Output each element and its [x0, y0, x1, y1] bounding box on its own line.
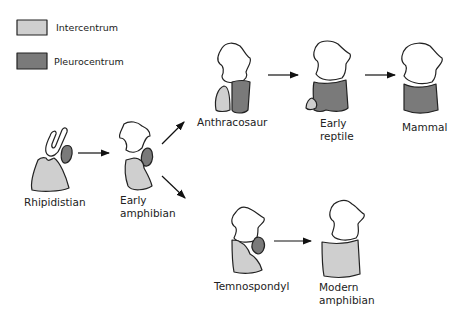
arrow-early-amphibian-to-anthracosaur	[162, 122, 184, 144]
early-reptile-label-line2: reptile	[320, 130, 354, 143]
rhipidistian-label: Rhipidistian	[24, 196, 86, 209]
legend-intercentrum-label: Intercentrum	[56, 21, 118, 34]
anthracosaur-vertebra	[215, 43, 250, 113]
modern-amphibian-vertebra	[322, 200, 364, 277]
anthracosaur-label: Anthracosaur	[197, 116, 267, 129]
rhipidistian-vertebra	[31, 128, 72, 191]
temnospondyl-label: Temnospondyl	[214, 280, 289, 293]
modern-amphibian-label-line1: Modern	[319, 281, 358, 294]
intercentrum-swatch	[17, 20, 47, 35]
temnospondyl-vertebra	[232, 207, 265, 273]
mammal-vertebra	[402, 43, 443, 113]
early-amphibian-label-line1: Early	[120, 194, 147, 207]
mammal-label: Mammal	[402, 121, 447, 134]
early-amphibian-label-line2: amphibian	[120, 207, 176, 220]
arrow-early-amphibian-to-temnospondyl	[162, 176, 185, 198]
early-reptile-vertebra	[306, 41, 351, 112]
vertebra-evolution-diagram	[0, 0, 462, 311]
early-amphibian-vertebra	[119, 122, 152, 190]
modern-amphibian-label-line2: amphibian	[319, 294, 375, 307]
pleurocentrum-swatch	[17, 53, 47, 69]
early-reptile-label-line1: Early	[320, 117, 347, 130]
legend-pleurocentrum-label: Pleurocentrum	[54, 55, 124, 68]
